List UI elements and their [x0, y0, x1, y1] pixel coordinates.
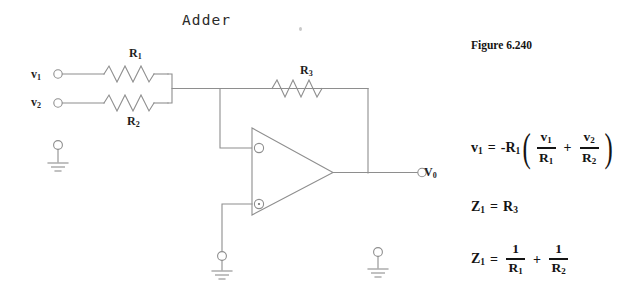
eq3-frac1-numerator: 1 [510, 242, 521, 257]
eq3-frac1-denominator: R1 [506, 261, 524, 277]
eq1-fraction-2: v2 R2 [577, 130, 602, 167]
resistor-label-r3: R3 [300, 64, 313, 78]
resistor-label-r1: R1 [129, 47, 142, 61]
eq2-lhs: Z1 [471, 199, 485, 215]
opamp-inverting-input-marker [254, 143, 263, 152]
eq3-plus: + [528, 252, 546, 268]
eq3-equals: = [485, 252, 503, 268]
resistor-label-r2: R2 [127, 115, 140, 129]
resistor-R2-zigzag [104, 95, 154, 111]
eq3-fraction-1: 1 R1 [503, 242, 528, 277]
eq1-lhs: v1 [471, 140, 483, 156]
eq1-plus: + [559, 140, 577, 156]
input-terminal-v2 [54, 99, 62, 107]
equation-z1-equals-r3: Z1 = R3 [471, 199, 518, 215]
eq3-fraction-2: 1 R2 [546, 242, 571, 277]
branch-v2 [63, 95, 169, 111]
input-terminal-v1 [54, 70, 62, 78]
output-label-v0: V0 [424, 166, 437, 180]
eq1-fraction-1: v1 R1 [534, 130, 559, 167]
eq1-equals: = [483, 140, 501, 156]
eq2-equals: = [485, 199, 503, 215]
wire-noninverting-to-ground [222, 204, 252, 252]
opamp-triangle [252, 128, 333, 215]
eq1-gain: R1 [505, 140, 520, 156]
branch-v1 [63, 66, 169, 82]
eq1-frac1-denominator: R1 [537, 151, 555, 167]
eq1-frac2-denominator: R2 [580, 151, 598, 167]
ground-symbol-output-reference [368, 248, 388, 277]
figure-caption: Figure 6.240 [471, 39, 532, 51]
eq2-rhs: R3 [503, 199, 518, 215]
resistor-R1-zigzag [104, 66, 154, 82]
opamp-noninverting-dot [258, 203, 260, 205]
equation-output-voltage: v1 = - R1 ( v1 R1 + v2 R2 ) [471, 130, 615, 167]
eq3-frac2-numerator: 1 [553, 242, 564, 257]
input-label-v2: v2 [31, 96, 41, 110]
eq1-frac2-numerator: v2 [581, 130, 596, 146]
input-label-v1: v1 [31, 68, 41, 82]
scan-speck [299, 27, 302, 31]
diagram-title: Adder [182, 12, 231, 28]
eq3-frac2-denominator: R2 [549, 261, 567, 277]
ground-symbol-noninverting [212, 252, 232, 279]
eq3-lhs: Z1 [471, 251, 485, 267]
equation-z1-reciprocal-sum: Z1 = 1 R1 + 1 R2 [471, 242, 571, 277]
summing-junction-bracket [168, 74, 172, 103]
wire-node-to-inverting-input [220, 89, 252, 149]
eq1-close-paren: ) [604, 134, 612, 163]
circuit-diagram-page: Adder R1 R2 R3 v1 v2 V0 Figure 6.240 v1 … [0, 0, 633, 302]
eq1-frac1-numerator: v1 [538, 130, 553, 146]
eq1-open-paren: ( [523, 134, 531, 163]
ground-symbol-input-reference [48, 141, 68, 171]
